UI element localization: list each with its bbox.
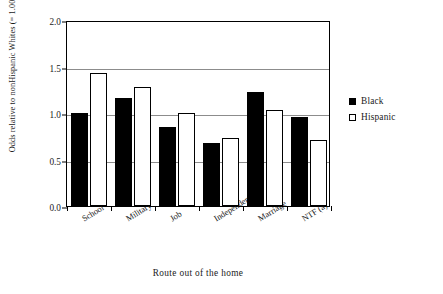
bar-black-military — [115, 98, 133, 206]
y-tick-label: 0.0 — [49, 203, 61, 213]
bar-black-ntf-a — [291, 117, 309, 206]
bar-hispanic-ntf-a — [310, 140, 328, 206]
bar-black-job — [159, 127, 177, 206]
chart-legend: BlackHispanic — [349, 93, 396, 125]
bar-black-school — [71, 113, 89, 206]
y-tick-mark — [62, 22, 67, 23]
y-axis-title: Odds relative to nonHispanic Whites (= 1… — [8, 0, 17, 200]
y-tick-mark — [62, 161, 67, 162]
y-tick-mark — [62, 68, 67, 69]
bar-black-independence — [203, 143, 221, 206]
y-tick-mark — [62, 115, 67, 116]
y-tick-label: 0.5 — [49, 157, 61, 167]
bar-hispanic-job — [178, 113, 196, 206]
bar-black-marriage — [247, 92, 265, 206]
bar-hispanic-military — [134, 87, 152, 206]
hollow-white-square-icon — [349, 114, 356, 121]
bar-hispanic-school — [90, 73, 108, 206]
x-tick-mark — [243, 206, 244, 211]
bar-chart: Odds relative to nonHispanic Whites (= 1… — [0, 0, 443, 294]
gridline — [67, 69, 329, 70]
x-tick-label: Job — [168, 209, 183, 224]
y-tick-label: 1.0 — [49, 110, 61, 120]
y-tick-label: 1.5 — [49, 64, 61, 74]
x-tick-mark — [287, 206, 288, 211]
legend-label: Black — [361, 96, 384, 106]
legend-label: Hispanic — [361, 112, 396, 122]
legend-item-hispanic[interactable]: Hispanic — [349, 109, 396, 125]
filled-black-square-icon — [349, 98, 356, 105]
x-tick-mark — [111, 206, 112, 211]
legend-item-black[interactable]: Black — [349, 93, 396, 109]
y-tick-label: 2.0 — [49, 17, 61, 27]
plot-area: 0.00.51.01.52.0 SchoolMilitaryJobIndepen… — [66, 21, 330, 207]
x-tick-mark — [155, 206, 156, 211]
x-axis-title: Route out of the home — [66, 268, 330, 278]
bar-hispanic-independence — [222, 138, 240, 206]
x-tick-mark — [67, 206, 68, 211]
bar-hispanic-marriage — [266, 110, 284, 206]
x-tick-mark — [199, 206, 200, 211]
x-tick-mark — [331, 206, 332, 211]
